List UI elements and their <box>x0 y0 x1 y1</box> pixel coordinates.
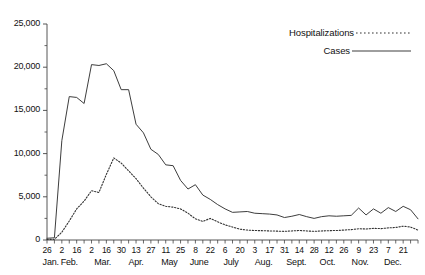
x-axis-tick-label: 16 <box>72 245 81 255</box>
x-axis-month-label: July <box>223 257 238 267</box>
x-axis-tick-label: 28 <box>310 245 319 255</box>
y-axis-label: 10,000 <box>0 148 40 158</box>
x-axis-tick-label: 11 <box>162 245 170 255</box>
x-axis-month-label: May <box>161 257 177 267</box>
x-axis-tick-label: 21 <box>399 245 408 255</box>
x-axis-tick-label: 25 <box>176 245 185 255</box>
legend-label-hospitalizations: Hospitalizations <box>200 27 354 38</box>
x-axis-tick-label: 7 <box>386 245 390 255</box>
x-axis-tick-label: 13 <box>132 245 141 255</box>
y-axis-label: 25,000 <box>0 18 40 28</box>
x-axis-month-label: Jan. <box>43 257 59 267</box>
x-axis-tick-label: 20 <box>235 245 244 255</box>
x-axis-tick-label: 9 <box>356 245 360 255</box>
y-axis-label: 5,000 <box>0 191 40 201</box>
x-axis-month-label: Apr. <box>128 257 143 267</box>
x-axis-tick-label: 26 <box>339 245 348 255</box>
series-line-cases <box>47 64 418 239</box>
x-axis-month-label: Mar. <box>94 257 111 267</box>
chart-container: 05,00010,00015,00020,00025,0002621621630… <box>0 0 425 275</box>
x-axis-tick-label: 26 <box>43 245 52 255</box>
x-axis-tick-label: 17 <box>265 245 274 255</box>
y-axis-label: 0 <box>0 234 40 244</box>
legend-label-cases: Cases <box>200 45 350 56</box>
x-axis-tick-label: 8 <box>193 245 197 255</box>
chart-canvas <box>0 0 425 275</box>
y-axis-label: 20,000 <box>0 61 40 71</box>
x-axis-tick-label: 12 <box>325 245 334 255</box>
x-axis-month-label: Sept. <box>286 257 306 267</box>
x-axis-month-label: Feb. <box>61 257 78 267</box>
x-axis-tick-label: 14 <box>295 245 304 255</box>
x-axis-month-label: Nov. <box>352 257 369 267</box>
x-axis-tick-label: 27 <box>146 245 155 255</box>
x-axis-month-label: June <box>190 257 209 267</box>
x-axis-tick-label: 2 <box>60 245 64 255</box>
x-axis-tick-label: 3 <box>253 245 257 255</box>
x-axis-tick-label: 22 <box>206 245 215 255</box>
x-axis-tick-label: 6 <box>223 245 227 255</box>
x-axis-month-label: Aug. <box>255 257 273 267</box>
x-axis-tick-label: 2 <box>89 245 93 255</box>
y-axis-label: 15,000 <box>0 104 40 114</box>
x-axis-tick-label: 23 <box>369 245 378 255</box>
x-axis-month-label: Dec. <box>384 257 402 267</box>
x-axis-tick-label: 30 <box>117 245 126 255</box>
x-axis-tick-label: 16 <box>102 245 111 255</box>
x-axis-month-label: Oct. <box>320 257 336 267</box>
x-axis-tick-label: 31 <box>280 245 289 255</box>
series-line-hospitalizations <box>47 158 418 240</box>
